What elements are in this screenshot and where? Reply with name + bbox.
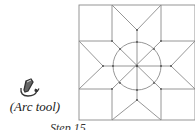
figure-caption: Step 15 xyxy=(50,121,86,130)
star-point-left xyxy=(79,41,103,89)
star-point-right xyxy=(171,41,195,89)
star-point-top xyxy=(112,5,161,30)
star-point-bottom xyxy=(112,100,161,120)
quilt-star-diagram xyxy=(0,0,195,130)
